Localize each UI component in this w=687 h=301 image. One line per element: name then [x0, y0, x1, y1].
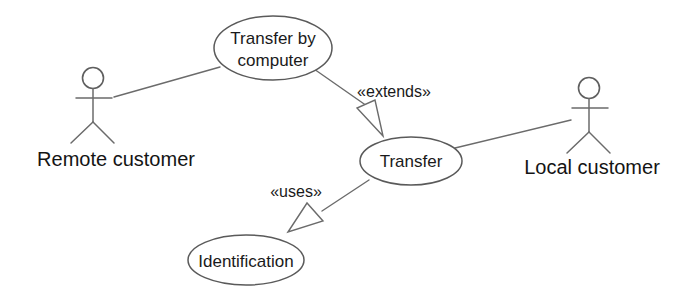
actor-right-leg-line: [589, 132, 610, 153]
extends-arrowhead-icon: [357, 100, 383, 136]
actor-remote-customer[interactable]: Remote customer: [37, 68, 195, 171]
actor-label: Local customer: [524, 156, 660, 178]
uses-arrowhead-icon: [288, 203, 323, 232]
actor-label: Remote customer: [37, 148, 195, 170]
actor-head-icon: [579, 78, 600, 99]
use-case-label-line1: Transfer by: [230, 29, 316, 48]
use-case-ellipse: [214, 16, 332, 80]
use-case-transfer-by-computer[interactable]: Transfer by computer: [214, 16, 332, 80]
use-case-label-line1: Transfer: [380, 152, 443, 171]
use-case-label-line1: Identification: [198, 252, 293, 271]
association-remote-customer-to-transfer-by-computer: [114, 67, 220, 97]
use-case-label-line2: computer: [238, 51, 309, 70]
extends-relationship[interactable]: «extends»: [314, 69, 431, 136]
actor-left-leg-line: [567, 132, 589, 153]
actor-head-icon: [83, 68, 104, 89]
uses-line: [322, 180, 369, 211]
use-case-identification[interactable]: Identification: [188, 235, 304, 285]
uml-use-case-diagram: «extends» «uses» Transfer by computer Tr…: [0, 0, 687, 301]
actor-local-customer[interactable]: Local customer: [524, 78, 660, 179]
association-local-customer-to-transfer: [455, 120, 571, 148]
actor-right-leg-line: [93, 122, 114, 143]
actor-left-leg-line: [71, 122, 93, 143]
uses-relationship[interactable]: «uses»: [270, 180, 369, 232]
use-case-transfer[interactable]: Transfer: [360, 137, 462, 185]
diagram-canvas: «extends» «uses» Transfer by computer Tr…: [0, 0, 687, 301]
association-lines: [114, 67, 571, 148]
extends-stereotype-label: «extends»: [357, 83, 431, 100]
uses-stereotype-label: «uses»: [270, 183, 322, 200]
